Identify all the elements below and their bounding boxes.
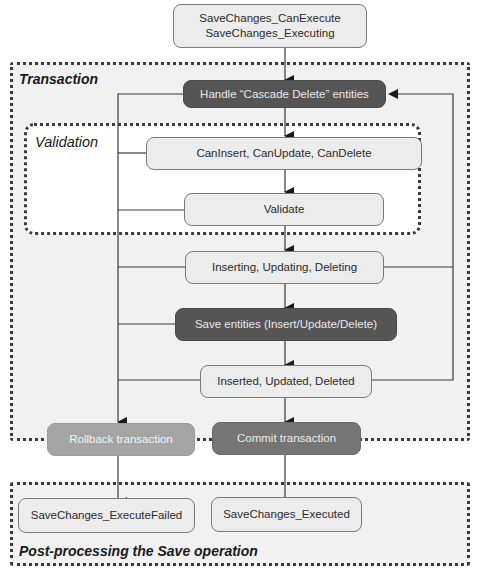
validate-label: Validate <box>264 202 305 217</box>
execute-failed-label: SaveChanges_ExecuteFailed <box>31 508 183 523</box>
pre-save-events-node[interactable]: Inserting, Updating, Deleting <box>185 251 384 284</box>
cascade-delete-node[interactable]: Handle “Cascade Delete” entities <box>183 80 386 108</box>
commit-transaction-node[interactable]: Commit transaction <box>212 422 361 455</box>
pre-save-events-label: Inserting, Updating, Deleting <box>212 260 357 275</box>
can-checks-node[interactable]: CanInsert, CanUpdate, CanDelete <box>146 137 422 170</box>
post-processing-label: Post-processing the Save operation <box>19 543 258 559</box>
executed-node[interactable]: SaveChanges_Executed <box>211 497 362 532</box>
execute-failed-node[interactable]: SaveChanges_ExecuteFailed <box>18 498 195 533</box>
can-checks-label: CanInsert, CanUpdate, CanDelete <box>196 146 371 161</box>
rollback-transaction-node[interactable]: Rollback transaction <box>47 423 195 456</box>
post-save-events-label: Inserted, Updated, Deleted <box>217 374 354 389</box>
executed-label: SaveChanges_Executed <box>223 507 350 522</box>
rollback-transaction-label: Rollback transaction <box>69 432 173 447</box>
save-entities-label: Save entities (Insert/Update/Delete) <box>195 317 377 332</box>
validate-node[interactable]: Validate <box>184 193 384 226</box>
start-events-label: SaveChanges_CanExecute SaveChanges_Execu… <box>199 11 340 41</box>
commit-transaction-label: Commit transaction <box>237 431 336 446</box>
post-save-events-node[interactable]: Inserted, Updated, Deleted <box>200 365 372 398</box>
save-entities-node[interactable]: Save entities (Insert/Update/Delete) <box>175 308 397 341</box>
cascade-delete-label: Handle “Cascade Delete” entities <box>200 87 369 102</box>
transaction-label: Transaction <box>19 71 98 87</box>
start-events-node[interactable]: SaveChanges_CanExecute SaveChanges_Execu… <box>173 4 367 48</box>
validation-label: Validation <box>35 134 98 150</box>
